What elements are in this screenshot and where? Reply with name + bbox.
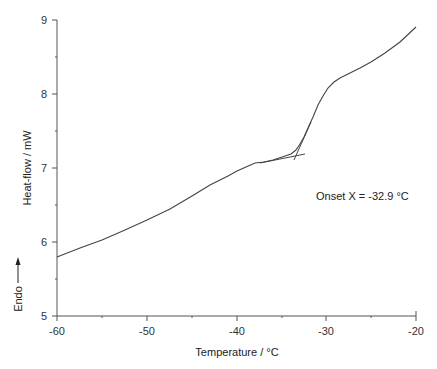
heat-flow-curve [57, 27, 416, 257]
x-tick-labels: -60 -50 -40 -30 -20 [49, 325, 424, 337]
x-tick-label: -40 [229, 325, 245, 337]
endo-label: Endo [12, 286, 24, 312]
x-axis-label: Temperature / °C [195, 346, 278, 358]
dsc-chart: 9 8 7 6 5 -60 -50 -40 -30 -20 Temperatur… [0, 0, 437, 369]
x-ticks [57, 316, 416, 321]
x-tick-label: -60 [49, 325, 65, 337]
y-axis-label: Heat-flow / mW [21, 130, 33, 206]
baseline-tangent [260, 154, 305, 163]
axes [57, 20, 416, 316]
x-tick-label: -20 [408, 325, 424, 337]
y-tick-labels: 9 8 7 6 5 [41, 14, 47, 322]
y-tick-label: 9 [41, 14, 47, 26]
x-tick-label: -50 [139, 325, 155, 337]
y-tick-label: 5 [41, 310, 47, 322]
x-tick-label: -30 [318, 325, 334, 337]
onset-annotation: Onset X = -32.9 °C [316, 190, 409, 202]
y-tick-label: 6 [41, 236, 47, 248]
y-ticks [52, 20, 57, 316]
y-tick-label: 7 [41, 162, 47, 174]
endo-arrow-icon [16, 257, 21, 283]
y-tick-label: 8 [41, 88, 47, 100]
